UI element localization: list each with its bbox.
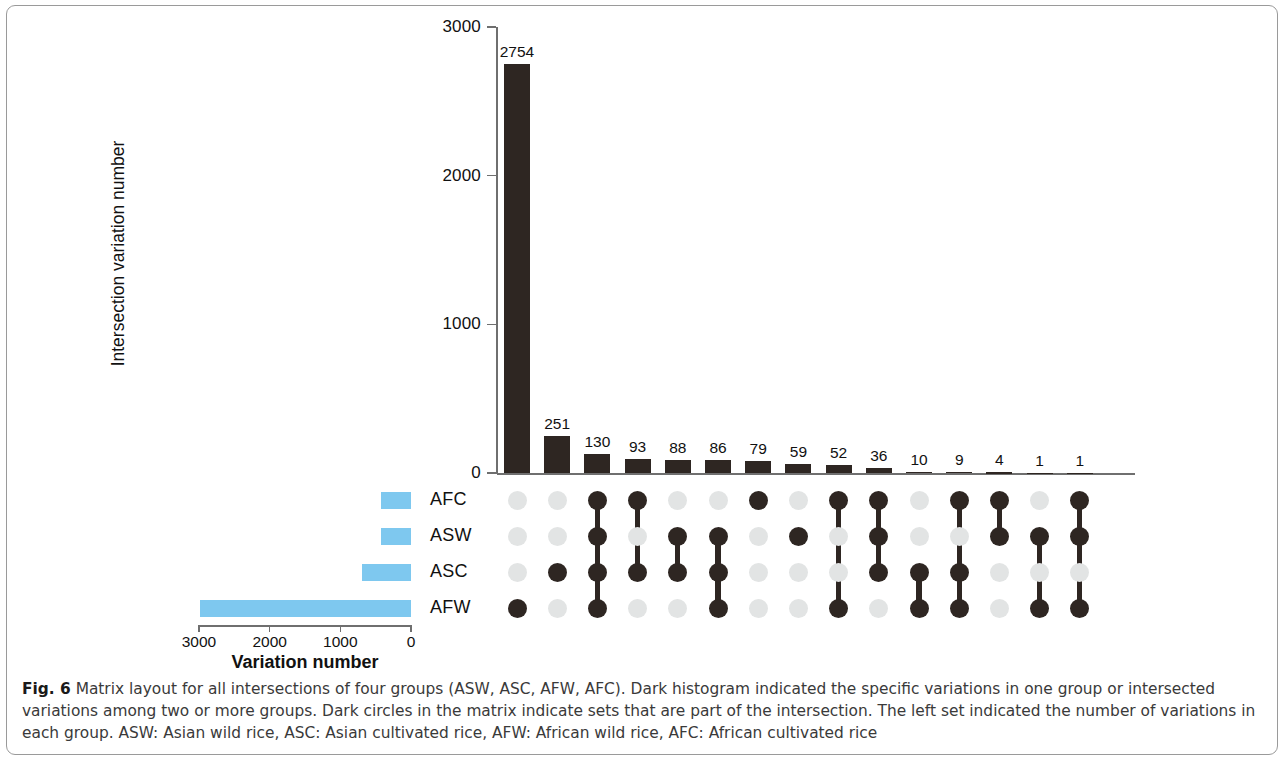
set-label-afw: AFW [430,597,492,618]
intersection-bar [866,468,892,473]
y-tick [487,175,496,177]
set-label-afc: AFC [430,489,492,510]
matrix-dot-active [1070,599,1089,618]
y-tick [487,324,496,326]
matrix-connector [836,500,841,608]
intersection-bar [1067,473,1093,475]
matrix-dot-inactive [789,599,808,618]
intersection-bar [1027,473,1053,475]
matrix-dot-active [829,491,848,510]
matrix-dot-inactive [628,527,647,546]
y-tick [487,472,496,474]
matrix-dot-active [910,599,929,618]
matrix-dot-inactive [990,599,1009,618]
matrix-dot-active [668,563,687,582]
y-tick-label: 0 [421,463,481,483]
matrix-dot-active [508,599,527,618]
figure-caption: Fig. 6 Matrix layout for all intersectio… [22,679,1262,745]
matrix-dot-inactive [508,563,527,582]
set-size-tick-label: 2000 [240,633,300,651]
matrix-dot-inactive [789,491,808,510]
y-tick-label: 3000 [421,17,481,37]
matrix-dot-inactive [668,491,687,510]
matrix-dot-active [709,563,728,582]
y-axis-title: Intersection variation number [108,44,129,464]
matrix-dot-inactive [869,599,888,618]
matrix-dot-active [628,491,647,510]
set-size-tick-label: 3000 [169,633,229,651]
matrix-connector [1077,500,1082,608]
y-tick [487,26,496,28]
set-size-bar-afc [381,492,411,509]
matrix-dot-active [668,527,687,546]
intersection-bar [705,460,731,473]
set-size-bar-asw [381,528,411,545]
matrix-dot-active [1070,491,1089,510]
set-size-tick-label: 1000 [310,633,370,651]
matrix-dot-inactive [829,527,848,546]
matrix-dot-active [869,527,888,546]
intersection-bar [906,472,932,474]
matrix-connector [595,500,600,608]
matrix-dot-active [990,491,1009,510]
matrix-dot-active [628,563,647,582]
intersection-bar [665,460,691,473]
intersection-bar [745,461,771,473]
y-tick-label: 1000 [421,314,481,334]
intersection-bar [986,472,1012,474]
set-size-tick [340,625,342,632]
set-size-axis-line [199,625,411,627]
intersection-bar-value: 2754 [487,43,547,61]
matrix-dot-inactive [508,527,527,546]
intersection-bar [946,472,972,474]
matrix-dot-inactive [628,599,647,618]
intersection-bar [625,459,651,473]
matrix-dot-inactive [749,599,768,618]
matrix-connector [957,500,962,608]
matrix-dot-inactive [910,527,929,546]
matrix-dot-active [950,491,969,510]
matrix-dot-active [1070,527,1089,546]
intersection-bar [584,454,610,473]
matrix-dot-inactive [1070,563,1089,582]
intersection-bar [504,64,530,473]
set-size-axis-title: Variation number [190,652,420,673]
set-label-asw: ASW [430,525,492,546]
intersection-bar-value: 1 [1050,452,1110,470]
matrix-dot-active [869,563,888,582]
intersection-bar [826,465,852,473]
matrix-dot-inactive [990,563,1009,582]
figure-label: Fig. 6 [22,680,71,698]
matrix-dot-inactive [950,527,969,546]
matrix-dot-active [950,599,969,618]
set-size-bar-afw [200,600,411,617]
matrix-dot-active [709,599,728,618]
matrix-dot-active [869,491,888,510]
matrix-dot-active [588,491,607,510]
matrix-dot-active [588,527,607,546]
matrix-dot-active [709,527,728,546]
matrix-dot-active [950,563,969,582]
intersection-bar [544,436,570,473]
matrix-dot-inactive [829,563,848,582]
matrix-dot-active [990,527,1009,546]
set-label-asc: ASC [430,561,492,582]
matrix-dot-inactive [548,599,567,618]
matrix-dot-inactive [749,563,768,582]
matrix-dot-active [548,563,567,582]
set-size-bar-asc [362,564,411,581]
matrix-dot-active [1030,527,1049,546]
matrix-dot-inactive [508,491,527,510]
matrix-dot-inactive [668,599,687,618]
upset-plot: 0100020003000 Intersection variation num… [0,0,1284,760]
set-size-tick [269,625,271,632]
set-size-tick-label: 0 [381,633,441,651]
set-size-tick [198,625,200,632]
matrix-dot-inactive [548,527,567,546]
matrix-dot-inactive [548,491,567,510]
y-tick-label: 2000 [421,166,481,186]
matrix-dot-inactive [1030,491,1049,510]
matrix-dot-inactive [1030,563,1049,582]
matrix-dot-active [789,527,808,546]
figure-caption-text: Matrix layout for all intersections of f… [22,680,1255,742]
